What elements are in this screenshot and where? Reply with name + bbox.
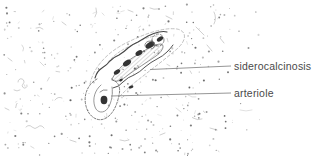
figure-canvas: siderocalcinosis arteriole: [0, 0, 332, 161]
histology-illustration: siderocalcinosis arteriole: [0, 0, 332, 161]
arteriole-structure: [85, 29, 184, 120]
arteriole-label: arteriole: [234, 87, 274, 99]
siderocalcinosis-label: siderocalcinosis: [234, 60, 311, 72]
annotation-siderocalcinosis: siderocalcinosis: [150, 60, 311, 72]
background-stipple-texture: [3, 4, 260, 156]
arteriole-pointer-line: [111, 93, 231, 96]
siderocalcinosis-pointer-line: [150, 66, 231, 70]
arteriole-lumen: [85, 79, 119, 120]
